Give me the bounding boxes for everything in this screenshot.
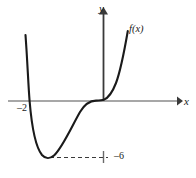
y-axis-label: y bbox=[99, 3, 104, 14]
x-axis-label: x bbox=[184, 96, 189, 107]
function-curve-label: f(x) bbox=[129, 24, 144, 35]
x-axis-arrow-icon bbox=[177, 97, 183, 106]
graph-canvas bbox=[0, 0, 196, 178]
function-graph-figure: y x f(x) –2 –6 bbox=[0, 0, 196, 178]
function-curve bbox=[26, 31, 128, 158]
x-intercept-label: –2 bbox=[17, 103, 27, 113]
minimum-value-label: –6 bbox=[114, 151, 124, 161]
